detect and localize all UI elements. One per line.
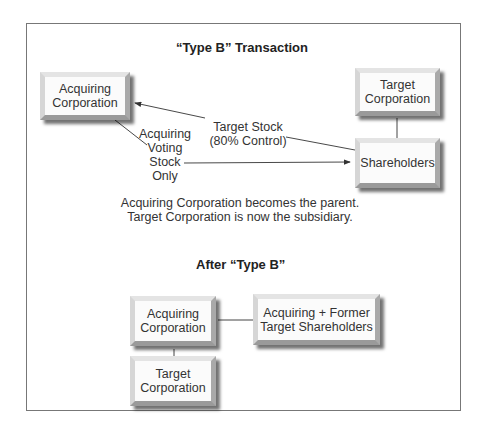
top-title: “Type B” Transaction [176, 40, 308, 55]
caption: Acquiring Corporation becomes the parent… [120, 196, 360, 224]
acquiring-stock-label: Acquiring Voting Stock Only [138, 127, 192, 183]
box-label: Target [365, 78, 430, 92]
acquiring-corporation-box: AcquiringCorporation [40, 72, 130, 120]
after-shareholders-box: Acquiring + FormerTarget Shareholders [253, 294, 380, 345]
label-line: Target Stock [208, 120, 288, 134]
label-line: Voting [138, 141, 192, 155]
box-label: Corporation [52, 96, 117, 110]
after-target-corporation-box: TargetCorporation [130, 356, 216, 406]
label-line: (80% Control) [208, 134, 288, 148]
label-line: Stock [138, 155, 192, 169]
target-corporation-box: TargetCorporation [355, 68, 440, 116]
target-stock-label: Target Stock (80% Control) [208, 120, 288, 148]
label-line: Only [138, 169, 192, 183]
box-label: Target [140, 367, 205, 381]
box-label: Corporation [365, 92, 430, 106]
box-label: Corporation [140, 381, 205, 395]
after-acquiring-corporation-box: AcquiringCorporation [130, 296, 216, 346]
box-label: Corporation [140, 321, 205, 335]
box-label: Target Shareholders [260, 320, 373, 334]
caption-line: Acquiring Corporation becomes the parent… [120, 196, 360, 210]
box-label: Acquiring + Former [260, 306, 373, 320]
box-label: Acquiring [52, 82, 117, 96]
box-label: Shareholders [360, 156, 434, 170]
label-line: Acquiring [138, 127, 192, 141]
bottom-title: After “Type B” [196, 257, 285, 272]
caption-line: Target Corporation is now the subsidiary… [120, 210, 360, 224]
shareholders-box: Shareholders [355, 138, 440, 188]
box-label: Acquiring [140, 307, 205, 321]
